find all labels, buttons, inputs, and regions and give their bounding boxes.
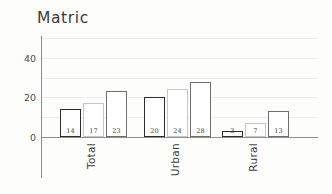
gridline-40 (41, 58, 317, 59)
bar-value-label: 14 (61, 127, 80, 135)
y-tick-label-40: 40 (24, 52, 36, 63)
bar-urban-series-1: 20 (144, 97, 165, 137)
bar-value-label: 28 (191, 127, 210, 135)
gridline-50 (41, 38, 317, 39)
category-label-total: Total (85, 143, 97, 169)
y-tick-label-0: 0 (30, 132, 36, 143)
gridline-30 (41, 78, 317, 79)
bar-value-label: 7 (246, 127, 265, 135)
bar-value-label: 24 (168, 127, 187, 135)
bar-rural-series-2: 7 (245, 123, 266, 137)
bar-urban-series-3: 28 (190, 82, 211, 137)
bar-value-label: 23 (107, 127, 126, 135)
bar-value-label: 20 (145, 127, 164, 135)
bar-value-label: 17 (84, 127, 103, 135)
y-axis-line (41, 36, 42, 178)
bar-total-series-3: 23 (106, 91, 127, 137)
bar-total-series-2: 17 (83, 103, 104, 137)
bar-value-label: 13 (269, 127, 288, 135)
x-axis-line (41, 137, 318, 138)
chart-title: Matric (37, 9, 89, 27)
bar-value-label: 3 (223, 127, 242, 135)
y-tick-label-20: 20 (24, 92, 36, 103)
category-label-urban: Urban (169, 143, 181, 176)
plot-area: 1417232024283713 (41, 38, 317, 137)
y-axis-tick-labels: 02040 (0, 0, 36, 194)
bar-total-series-1: 14 (60, 109, 81, 137)
chart-container: Matric 02040 1417232024283713 TotalUrban… (0, 0, 332, 194)
bar-rural-series-3: 13 (268, 111, 289, 137)
bar-urban-series-2: 24 (167, 89, 188, 137)
category-label-rural: Rural (247, 143, 259, 172)
